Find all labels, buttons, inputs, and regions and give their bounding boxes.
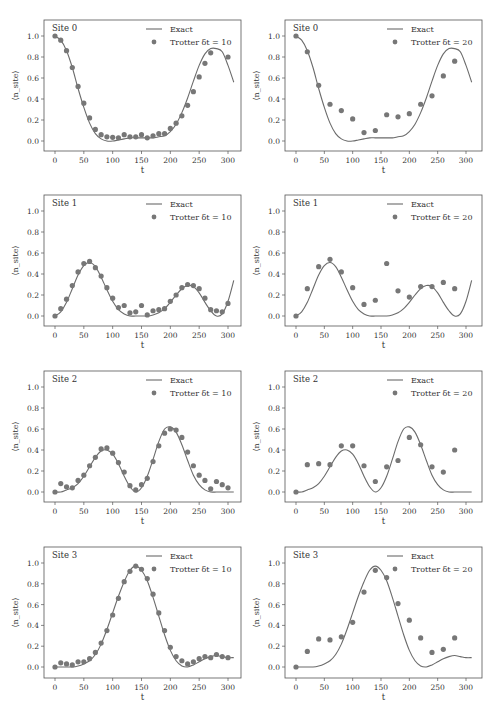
y-tick-label: 1.0 — [268, 32, 280, 41]
trotter-point — [214, 652, 219, 657]
y-tick-label: 0.8 — [27, 228, 39, 237]
legend-marker-swatch — [152, 391, 157, 396]
x-tick-label: 150 — [374, 331, 389, 340]
x-tick-label: 100 — [106, 331, 121, 340]
y-tick-label: 0.2 — [27, 291, 39, 300]
trotter-point — [395, 601, 400, 606]
x-tick-label: 0 — [294, 683, 299, 692]
trotter-point — [133, 564, 138, 569]
trotter-point — [350, 443, 355, 448]
trotter-point — [64, 297, 69, 302]
trotter-point — [339, 443, 344, 448]
trotter-point — [75, 659, 80, 664]
trotter-point — [429, 284, 434, 289]
panel-title: Site 3 — [52, 550, 77, 560]
y-tick-label: 0.2 — [27, 642, 39, 651]
x-tick-label: 250 — [431, 507, 446, 516]
x-tick-label: 50 — [320, 331, 330, 340]
y-tick-label: 0.0 — [268, 663, 280, 672]
figure-grid: 0.00.20.40.60.81.0050100150200250300t⟨n_… — [0, 0, 500, 712]
legend-label-trotter: Trotter δt = 20 — [411, 389, 473, 398]
trotter-point — [407, 618, 412, 623]
y-tick-label: 0.2 — [27, 467, 39, 476]
trotter-point — [174, 292, 179, 297]
chart-panel-row3-right: 0.00.20.40.60.81.0050100150200250300t⟨n_… — [252, 371, 482, 526]
trotter-point — [407, 435, 412, 440]
trotter-point — [122, 469, 127, 474]
trotter-point — [162, 306, 167, 311]
chart-canvas: 0.00.20.40.60.81.0050100150200250300t⟨n_… — [0, 0, 500, 712]
y-tick-label: 1.0 — [27, 383, 39, 392]
trotter-point — [407, 111, 412, 116]
x-tick-label: 0 — [294, 507, 299, 516]
trotter-point — [174, 427, 179, 432]
legend-marker-swatch — [393, 215, 398, 220]
legend-marker-swatch — [152, 567, 157, 572]
panel-title: Site 3 — [293, 550, 318, 560]
panel-title: Site 0 — [293, 23, 318, 33]
trotter-point — [127, 483, 132, 488]
trotter-point — [179, 435, 184, 440]
trotter-point — [81, 261, 86, 266]
trotter-point — [429, 93, 434, 98]
x-tick-label: 50 — [79, 331, 89, 340]
trotter-point — [145, 135, 150, 140]
trotter-point — [384, 112, 389, 117]
trotter-point — [93, 127, 98, 132]
trotter-point — [179, 285, 184, 290]
y-tick-label: 0.0 — [27, 312, 39, 321]
y-tick-label: 0.4 — [27, 446, 39, 455]
legend-label-trotter: Trotter δt = 10 — [170, 565, 232, 574]
x-tick-label: 250 — [192, 507, 207, 516]
trotter-point — [104, 134, 109, 139]
x-tick-label: 100 — [106, 156, 121, 165]
y-tick-label: 0.0 — [268, 312, 280, 321]
trotter-point — [174, 121, 179, 126]
trotter-point — [191, 463, 196, 468]
x-tick-label: 200 — [163, 331, 178, 340]
trotter-point — [305, 462, 310, 467]
trotter-point — [162, 628, 167, 633]
panel-title: Site 2 — [293, 374, 318, 384]
trotter-point — [168, 426, 173, 431]
x-tick-label: 250 — [431, 683, 446, 692]
x-axis-label: t — [141, 340, 145, 350]
trotter-point — [452, 635, 457, 640]
trotter-point — [104, 628, 109, 633]
trotter-point — [185, 282, 190, 287]
trotter-point — [225, 301, 230, 306]
x-tick-label: 50 — [320, 683, 330, 692]
chart-panel-row2-right: 0.00.20.40.60.81.0050100150200250300t⟨n_… — [252, 195, 482, 350]
trotter-point — [197, 473, 202, 478]
y-tick-label: 0.0 — [268, 488, 280, 497]
trotter-point — [156, 610, 161, 615]
trotter-point — [174, 654, 179, 659]
trotter-point — [104, 445, 109, 450]
trotter-point — [361, 463, 366, 468]
trotter-point — [197, 74, 202, 79]
trotter-point — [441, 73, 446, 78]
trotter-point — [162, 131, 167, 136]
trotter-point — [208, 307, 213, 312]
trotter-point — [429, 464, 434, 469]
legend-label-trotter: Trotter δt = 10 — [170, 38, 232, 47]
y-tick-label: 0.4 — [268, 446, 280, 455]
trotter-point — [93, 455, 98, 460]
x-tick-label: 200 — [163, 507, 178, 516]
y-tick-label: 0.2 — [268, 642, 280, 651]
y-tick-label: 0.6 — [268, 425, 280, 434]
trotter-point — [202, 61, 207, 66]
trotter-point — [220, 654, 225, 659]
trotter-point — [122, 579, 127, 584]
chart-panel-row2-left: 0.00.20.40.60.81.0050100150200250300t⟨n_… — [11, 195, 241, 350]
trotter-point — [293, 313, 298, 318]
y-axis-label: ⟨n_site⟩ — [252, 597, 261, 627]
trotter-point — [208, 486, 213, 491]
y-tick-label: 0.8 — [27, 580, 39, 589]
legend-label-trotter: Trotter δt = 20 — [411, 38, 473, 47]
trotter-point — [70, 485, 75, 490]
trotter-point — [81, 473, 86, 478]
trotter-point — [305, 649, 310, 654]
trotter-point — [293, 33, 298, 38]
x-tick-label: 0 — [294, 331, 299, 340]
